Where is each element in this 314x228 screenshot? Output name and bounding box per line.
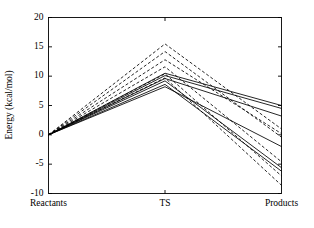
y-tick-label: 0: [39, 129, 44, 139]
series-line: [49, 81, 282, 168]
y-tick-label: -5: [36, 158, 44, 168]
x-tick-label: Reactants: [30, 198, 67, 208]
y-tick-label: 15: [34, 41, 44, 51]
plot-border: [49, 18, 282, 194]
series-line: [49, 52, 282, 138]
chart-canvas: -10-505101520 ReactantsTSProducts Energy…: [0, 0, 314, 228]
y-axis-title: Energy (kcal/mol): [4, 70, 15, 139]
y-tick-label: 5: [39, 100, 44, 110]
series-line: [49, 78, 282, 185]
series-line: [49, 73, 282, 135]
x-axis-ticks: ReactantsTSProducts: [30, 18, 298, 208]
series-line: [49, 44, 282, 135]
y-tick-label: 20: [34, 12, 44, 22]
x-tick-label: TS: [159, 198, 170, 208]
series-line: [49, 60, 282, 135]
series-group: [49, 44, 282, 185]
series-line: [49, 74, 282, 176]
energy-profile-figure: -10-505101520 ReactantsTSProducts Energy…: [0, 0, 314, 228]
y-tick-label: -10: [31, 188, 44, 198]
x-tick-label: Products: [265, 198, 299, 208]
y-tick-label: 10: [34, 70, 44, 80]
series-line: [49, 84, 282, 171]
plot-frame: [49, 18, 282, 194]
y-axis-ticks: -10-505101520: [31, 12, 282, 198]
